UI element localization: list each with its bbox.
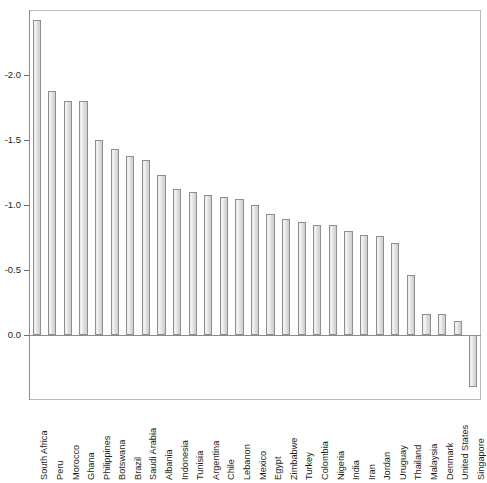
bar-saudi-arabia [142, 160, 150, 336]
chart-title: Poor students' standard deviations from … [4, 0, 474, 1]
x-label-turkey: Turkey [305, 452, 314, 480]
bar-morocco [64, 101, 72, 335]
x-label-indonesia: Indonesia [181, 440, 190, 480]
x-label-mexico: Mexico [259, 451, 268, 480]
bar-uruguay [391, 243, 399, 335]
bar-denmark [438, 314, 446, 335]
bar-egypt [266, 214, 274, 335]
bar-botswana [111, 149, 119, 335]
bar-ghana [79, 101, 87, 335]
x-label-denmark: Denmark [446, 443, 455, 480]
bar-lebanon [235, 199, 243, 336]
bar-jordan [376, 236, 384, 335]
y-tick-label: -1.0 [0, 199, 23, 210]
bar-argentina [204, 195, 212, 335]
bar-india [344, 231, 352, 335]
x-label-iran: Iran [368, 464, 377, 480]
x-label-tunisia: Tunisia [196, 451, 205, 480]
x-label-malaysia: Malaysia [430, 444, 439, 480]
x-label-uruguay: Uruguay [399, 445, 408, 480]
x-label-peru: Peru [56, 461, 65, 480]
x-label-philippines: Philippines [103, 436, 112, 480]
x-label-ghana: Ghana [87, 452, 96, 480]
x-label-morocco: Morocco [72, 445, 81, 480]
y-tick-label: 0.0 [0, 329, 23, 340]
x-label-thailand: Thailand [414, 445, 423, 480]
bar-turkey [298, 222, 306, 335]
bar-indonesia [173, 189, 181, 335]
x-label-saudi-arabia: Saudi Arabia [149, 428, 158, 480]
x-label-brazil: Brazil [134, 457, 143, 480]
x-label-albania: Albania [165, 449, 174, 480]
x-label-colombia: Colombia [321, 441, 330, 480]
x-label-egypt: Egypt [274, 457, 283, 481]
bar-brazil [126, 156, 134, 335]
bar-colombia [313, 225, 321, 336]
bar-albania [157, 175, 165, 335]
bar-tunisia [189, 192, 197, 335]
x-label-zimbabwe: Zimbabwe [290, 438, 299, 480]
bar-philippines [95, 140, 103, 335]
bar-singapore [469, 335, 477, 387]
bars-layer [29, 10, 481, 400]
x-axis-category-labels: South AfricaPeruMoroccoGhanaPhilippinesB… [29, 402, 481, 483]
x-label-lebanon: Lebanon [243, 444, 252, 480]
x-label-chile: Chile [227, 459, 236, 480]
bar-nigeria [329, 225, 337, 336]
y-tick-label: -0.5 [0, 264, 23, 275]
x-label-singapore: Singapore [477, 438, 486, 480]
bar-iran [360, 235, 368, 335]
y-tick-label: -1.5 [0, 134, 23, 145]
x-label-south-africa: South Africa [40, 430, 49, 480]
x-label-united-states: United States [461, 425, 470, 480]
bar-thailand [407, 275, 415, 335]
x-label-jordan: Jordan [383, 452, 392, 480]
x-label-nigeria: Nigeria [337, 451, 346, 480]
y-tick-label: -2.0 [0, 69, 23, 80]
bar-south-africa [33, 20, 41, 335]
x-label-botswana: Botswana [118, 440, 127, 480]
bar-malaysia [422, 314, 430, 335]
bar-zimbabwe [282, 219, 290, 335]
bar-united-states [454, 321, 462, 335]
y-axis-tick-labels: 0.0-0.5-1.0-1.5-2.0 [0, 0, 23, 483]
x-label-argentina: Argentina [212, 441, 221, 480]
bar-chart: Poor students' standard deviations from … [0, 0, 487, 483]
bar-mexico [251, 205, 259, 335]
bar-peru [48, 91, 56, 335]
bar-chile [220, 197, 228, 335]
x-label-india: India [352, 460, 361, 480]
